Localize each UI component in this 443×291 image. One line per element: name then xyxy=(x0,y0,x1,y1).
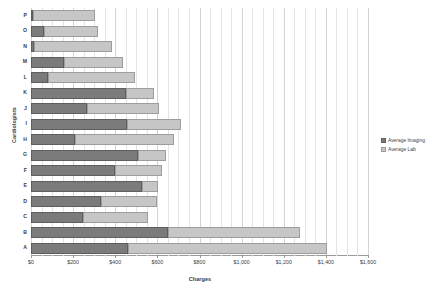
bar-row: B xyxy=(31,225,368,241)
x-axis-title: Charges xyxy=(0,276,400,282)
y-axis-tick-label: O xyxy=(15,27,27,33)
stacked-bar[interactable] xyxy=(31,26,98,37)
bar-segment[interactable] xyxy=(31,150,138,161)
y-axis-tick-label: E xyxy=(15,182,27,188)
y-axis-tick-label: N xyxy=(15,43,27,49)
bar-segment[interactable] xyxy=(64,57,123,68)
bar-row: D xyxy=(31,194,368,210)
x-axis-tick-label: $600 xyxy=(151,259,163,265)
y-axis-tick-label: A xyxy=(15,244,27,250)
bar-segment[interactable] xyxy=(127,119,181,130)
legend-item[interactable]: Average Imaging xyxy=(381,138,441,143)
y-axis-tick-label: C xyxy=(15,213,27,219)
bar-segment[interactable] xyxy=(31,26,44,37)
x-tick-mark xyxy=(157,255,158,258)
stacked-bar[interactable] xyxy=(31,88,154,99)
legend-swatch-icon xyxy=(381,138,386,143)
gridline-major xyxy=(368,8,369,256)
bar-segment[interactable] xyxy=(44,26,98,37)
stacked-bar[interactable] xyxy=(31,72,135,83)
x-tick-mark xyxy=(73,255,74,258)
stacked-bar[interactable] xyxy=(31,243,327,254)
bar-row: L xyxy=(31,70,368,86)
bar-row: P xyxy=(31,8,368,24)
y-axis-tick-label: H xyxy=(15,136,27,142)
x-axis-tick-label: $1,200 xyxy=(276,259,292,265)
y-axis-tick-label: I xyxy=(15,120,27,126)
stacked-bar[interactable] xyxy=(31,57,123,68)
bar-segment[interactable] xyxy=(168,227,300,238)
bar-row: C xyxy=(31,210,368,226)
bar-row: A xyxy=(31,241,368,257)
bar-segment[interactable] xyxy=(34,41,112,52)
bar-segment[interactable] xyxy=(126,88,154,99)
legend-label: Average Lab xyxy=(388,147,416,152)
stacked-bar[interactable] xyxy=(31,212,148,223)
stacked-bar[interactable] xyxy=(31,150,166,161)
bar-rows: PONMLKJIHGFEDCBA xyxy=(31,8,368,256)
x-axis-tick-label: $200 xyxy=(67,259,79,265)
chart-legend: Average ImagingAverage Lab xyxy=(381,138,441,156)
x-tick-mark xyxy=(115,255,116,258)
bar-segment[interactable] xyxy=(48,72,135,83)
stacked-bar[interactable] xyxy=(31,134,174,145)
bar-segment[interactable] xyxy=(31,88,126,99)
y-axis-tick-label: M xyxy=(15,58,27,64)
bar-segment[interactable] xyxy=(31,227,168,238)
bar-segment[interactable] xyxy=(75,134,174,145)
x-tick-mark xyxy=(242,255,243,258)
y-axis-tick-label: G xyxy=(15,151,27,157)
bar-segment[interactable] xyxy=(31,196,101,207)
bar-segment[interactable] xyxy=(31,57,64,68)
stacked-bar[interactable] xyxy=(31,227,300,238)
y-axis-tick-label: L xyxy=(15,74,27,80)
bar-row: M xyxy=(31,55,368,71)
bar-segment[interactable] xyxy=(31,103,87,114)
bar-segment[interactable] xyxy=(31,212,83,223)
bar-segment[interactable] xyxy=(128,243,327,254)
x-axis-ticks: $0$200$400$600$800$1,000$1,200$1,400$1,6… xyxy=(31,259,368,271)
stacked-bar[interactable] xyxy=(31,119,181,130)
bar-row: F xyxy=(31,163,368,179)
bar-chart: Cardiologists PONMLKJIHGFEDCBA $0$200$40… xyxy=(0,0,443,291)
bar-segment[interactable] xyxy=(31,119,127,130)
bar-row: H xyxy=(31,132,368,148)
x-axis-tick-label: $400 xyxy=(109,259,121,265)
chart-title xyxy=(0,0,443,6)
bar-segment[interactable] xyxy=(31,134,75,145)
stacked-bar[interactable] xyxy=(31,41,112,52)
bar-segment[interactable] xyxy=(31,72,48,83)
bar-row: I xyxy=(31,117,368,133)
y-axis-tick-label: P xyxy=(15,12,27,18)
stacked-bar[interactable] xyxy=(31,10,95,21)
stacked-bar[interactable] xyxy=(31,181,158,192)
bar-segment[interactable] xyxy=(33,10,95,21)
bar-segment[interactable] xyxy=(142,181,159,192)
plot-area: PONMLKJIHGFEDCBA xyxy=(31,8,368,256)
x-tick-mark xyxy=(200,255,201,258)
x-axis-tick-label: $0 xyxy=(28,259,34,265)
y-axis-tick-label: K xyxy=(15,89,27,95)
x-tick-mark xyxy=(284,255,285,258)
bar-segment[interactable] xyxy=(31,243,128,254)
bar-segment[interactable] xyxy=(31,181,142,192)
x-tick-mark xyxy=(368,255,369,258)
stacked-bar[interactable] xyxy=(31,196,157,207)
x-axis-tick-label: $1,400 xyxy=(318,259,334,265)
stacked-bar[interactable] xyxy=(31,103,159,114)
bar-segment[interactable] xyxy=(83,212,148,223)
stacked-bar[interactable] xyxy=(31,165,162,176)
y-axis-tick-label: J xyxy=(15,105,27,111)
y-axis-tick-label: B xyxy=(15,229,27,235)
bar-segment[interactable] xyxy=(87,103,160,114)
legend-item[interactable]: Average Lab xyxy=(381,147,441,152)
bar-segment[interactable] xyxy=(101,196,158,207)
y-axis-tick-label: D xyxy=(15,198,27,204)
bar-segment[interactable] xyxy=(31,165,115,176)
bar-segment[interactable] xyxy=(138,150,165,161)
bar-row: O xyxy=(31,24,368,40)
y-axis-tick-label: F xyxy=(15,167,27,173)
bar-segment[interactable] xyxy=(115,165,161,176)
x-axis-tick-label: $1,000 xyxy=(234,259,250,265)
legend-label: Average Imaging xyxy=(388,138,425,143)
